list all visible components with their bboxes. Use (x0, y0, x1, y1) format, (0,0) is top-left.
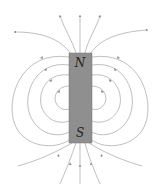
south-pole-label: S (68, 126, 92, 140)
field-lines-diagram (0, 0, 158, 184)
north-pole-label: N (68, 56, 92, 70)
